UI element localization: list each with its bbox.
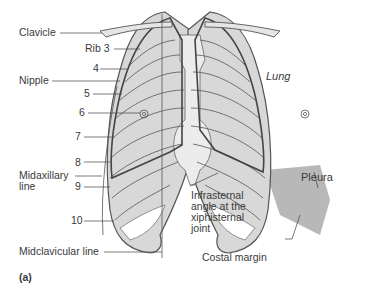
label-costal-margin: Costal margin — [202, 252, 267, 263]
label-clavicle: Clavicle — [19, 27, 56, 38]
label-pleura: Pleura — [301, 172, 333, 183]
label-rib-5: 5 — [84, 88, 90, 99]
panel-label: (a) — [19, 272, 32, 283]
label-rib-4: 4 — [93, 63, 99, 74]
label-midaxillary-line-2: line — [19, 181, 35, 192]
label-infrasternal-4: joint — [191, 223, 210, 234]
label-rib-6: 6 — [79, 107, 85, 118]
label-midclavicular-line: Midclavicular line — [19, 246, 99, 257]
label-rib-7: 7 — [75, 131, 81, 142]
label-nipple: Nipple — [19, 75, 49, 86]
label-rib-8: 8 — [75, 157, 81, 168]
label-rib-3: Rib 3 — [85, 43, 110, 54]
label-lung: Lung — [266, 71, 290, 82]
label-rib-10: 10 — [71, 215, 83, 226]
label-rib-9: 9 — [75, 181, 81, 192]
